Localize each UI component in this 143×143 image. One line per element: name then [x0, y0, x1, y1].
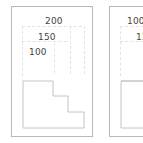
- left-panel: 200 150 100: [11, 6, 93, 137]
- stepped-shape: [12, 7, 94, 138]
- rectangle-shape: [110, 7, 143, 138]
- right-panel: 100 15 2: [109, 6, 143, 137]
